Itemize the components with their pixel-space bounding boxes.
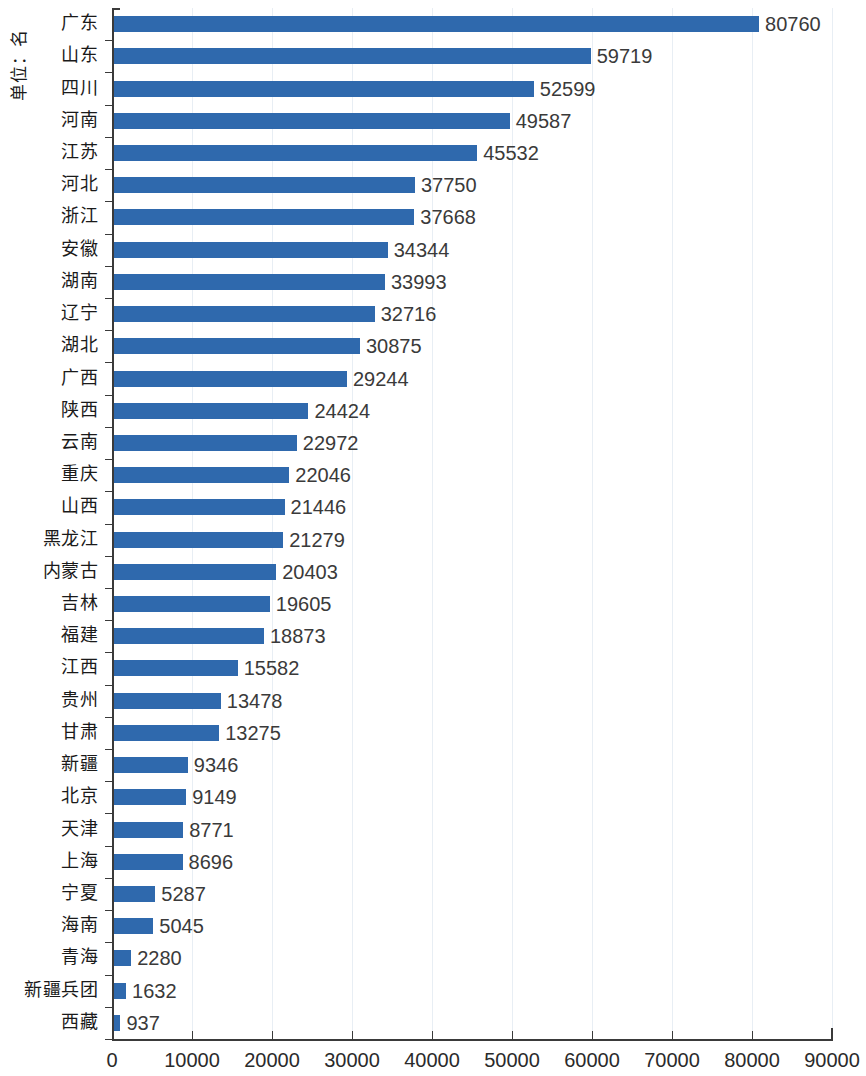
category-label-text: 福建 [61, 626, 98, 644]
y-tickmark [105, 749, 112, 750]
category-label-text: 江苏 [61, 143, 98, 161]
category-label-text: 浙江 [61, 207, 98, 225]
x-tickmark [592, 1031, 593, 1040]
bar [113, 693, 221, 709]
bar-value-label: 29244 [353, 369, 409, 389]
category-label-text: 广东 [61, 14, 98, 32]
bar-value-label: 13275 [225, 723, 281, 743]
bar [113, 338, 360, 354]
category-label: 陕西 [0, 400, 104, 422]
category-label: 福建 [0, 625, 104, 647]
x-tickmark [672, 1031, 673, 1040]
category-label-text: 北京 [61, 787, 98, 805]
y-tickmark [105, 813, 112, 814]
y-tickmark [105, 652, 112, 653]
bar-value-label: 22972 [303, 433, 359, 453]
category-label-text: 甘肃 [61, 723, 98, 741]
category-label: 青海 [0, 947, 104, 969]
y-tickmark [105, 556, 112, 557]
bar [113, 950, 131, 966]
bar-value-label: 19605 [276, 594, 332, 614]
x-tick-label: 10000 [164, 1050, 220, 1070]
category-label: 江苏 [0, 142, 104, 164]
bar [113, 789, 186, 805]
bar-chart: 单位：名 广东山东四川河南江苏河北浙江安徽湖南辽宁湖北广西陕西云南重庆山西黑龙江… [0, 0, 866, 1076]
gridline [272, 8, 273, 1039]
x-tickmark [832, 1031, 833, 1040]
category-label-text: 新疆兵团 [24, 981, 98, 999]
category-label: 河北 [0, 174, 104, 196]
x-tick-label: 20000 [244, 1050, 300, 1070]
bar-value-label: 20403 [282, 562, 338, 582]
y-tickmark [105, 942, 112, 943]
bar-value-label: 15582 [244, 658, 300, 678]
category-label: 西藏 [0, 1012, 104, 1034]
bar-value-label: 937 [126, 1013, 159, 1033]
y-tickmark [105, 298, 112, 299]
bar-value-label: 37668 [420, 207, 476, 227]
gridline [352, 8, 353, 1039]
bar [113, 403, 308, 419]
x-tick-label: 30000 [324, 1050, 380, 1070]
bar [113, 628, 264, 644]
category-label-text: 河北 [61, 175, 98, 193]
category-label: 浙江 [0, 206, 104, 228]
y-tickmark [105, 878, 112, 879]
bar [113, 177, 415, 193]
bar [113, 145, 477, 161]
category-label: 新疆 [0, 754, 104, 776]
bar [113, 854, 183, 870]
y-tickmark [105, 395, 112, 396]
bar-value-label: 5045 [159, 916, 204, 936]
y-tickmark [105, 620, 112, 621]
category-label: 吉林 [0, 593, 104, 615]
gridline [832, 8, 833, 1039]
category-label-text: 吉林 [61, 594, 98, 612]
bar [113, 757, 188, 773]
bar [113, 306, 375, 322]
category-label: 广东 [0, 13, 104, 35]
y-tickmark [105, 685, 112, 686]
x-axis-line [112, 1039, 833, 1041]
bar [113, 918, 153, 934]
category-label: 湖北 [0, 335, 104, 357]
x-tickmark [512, 1031, 513, 1040]
bar-value-label: 18873 [270, 626, 326, 646]
x-tick-label: 90000 [804, 1050, 860, 1070]
category-label-text: 新疆 [61, 755, 98, 773]
bar-value-label: 1632 [132, 981, 177, 1001]
bar [113, 242, 388, 258]
category-label: 新疆兵团 [0, 980, 104, 1002]
bar-value-label: 5287 [161, 884, 206, 904]
bar-value-label: 8696 [189, 852, 234, 872]
category-label: 贵州 [0, 690, 104, 712]
bar [113, 209, 414, 225]
bar [113, 532, 283, 548]
bar [113, 822, 183, 838]
category-label-text: 天津 [61, 820, 98, 838]
bar-value-label: 30875 [366, 336, 422, 356]
bar [113, 274, 385, 290]
x-tick-label: 70000 [644, 1050, 700, 1070]
category-label: 湖南 [0, 271, 104, 293]
category-label-text: 重庆 [61, 465, 98, 483]
bar-value-label: 13478 [227, 691, 283, 711]
x-tick-label: 60000 [564, 1050, 620, 1070]
y-tickmark [105, 72, 112, 73]
y-tickmark [105, 1039, 112, 1040]
category-label: 宁夏 [0, 883, 104, 905]
category-label-text: 海南 [61, 916, 98, 934]
category-label-text: 广西 [61, 369, 98, 387]
category-label-text: 江西 [61, 658, 98, 676]
x-tickmark [112, 1028, 113, 1040]
bar-value-label: 2280 [137, 948, 182, 968]
y-tickmark [105, 105, 112, 106]
plot-area: 广东山东四川河南江苏河北浙江安徽湖南辽宁湖北广西陕西云南重庆山西黑龙江内蒙古吉林… [0, 0, 866, 1076]
gridline [592, 8, 593, 1039]
category-label-text: 陕西 [61, 401, 98, 419]
bar-value-label: 8771 [189, 820, 234, 840]
category-label-text: 湖北 [61, 336, 98, 354]
y-axis-top-cap [112, 8, 120, 10]
x-tick-label: 50000 [484, 1050, 540, 1070]
bar-value-label: 52599 [540, 79, 596, 99]
